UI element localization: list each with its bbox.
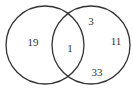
- right-side-count: 11: [111, 35, 122, 47]
- right-bottom-count: 33: [92, 66, 104, 78]
- right-top-count: 3: [88, 15, 94, 27]
- venn-diagram: 19 1 3 11 33: [0, 0, 133, 92]
- intersection-count: 1: [67, 42, 73, 54]
- left-only-count: 19: [28, 36, 40, 48]
